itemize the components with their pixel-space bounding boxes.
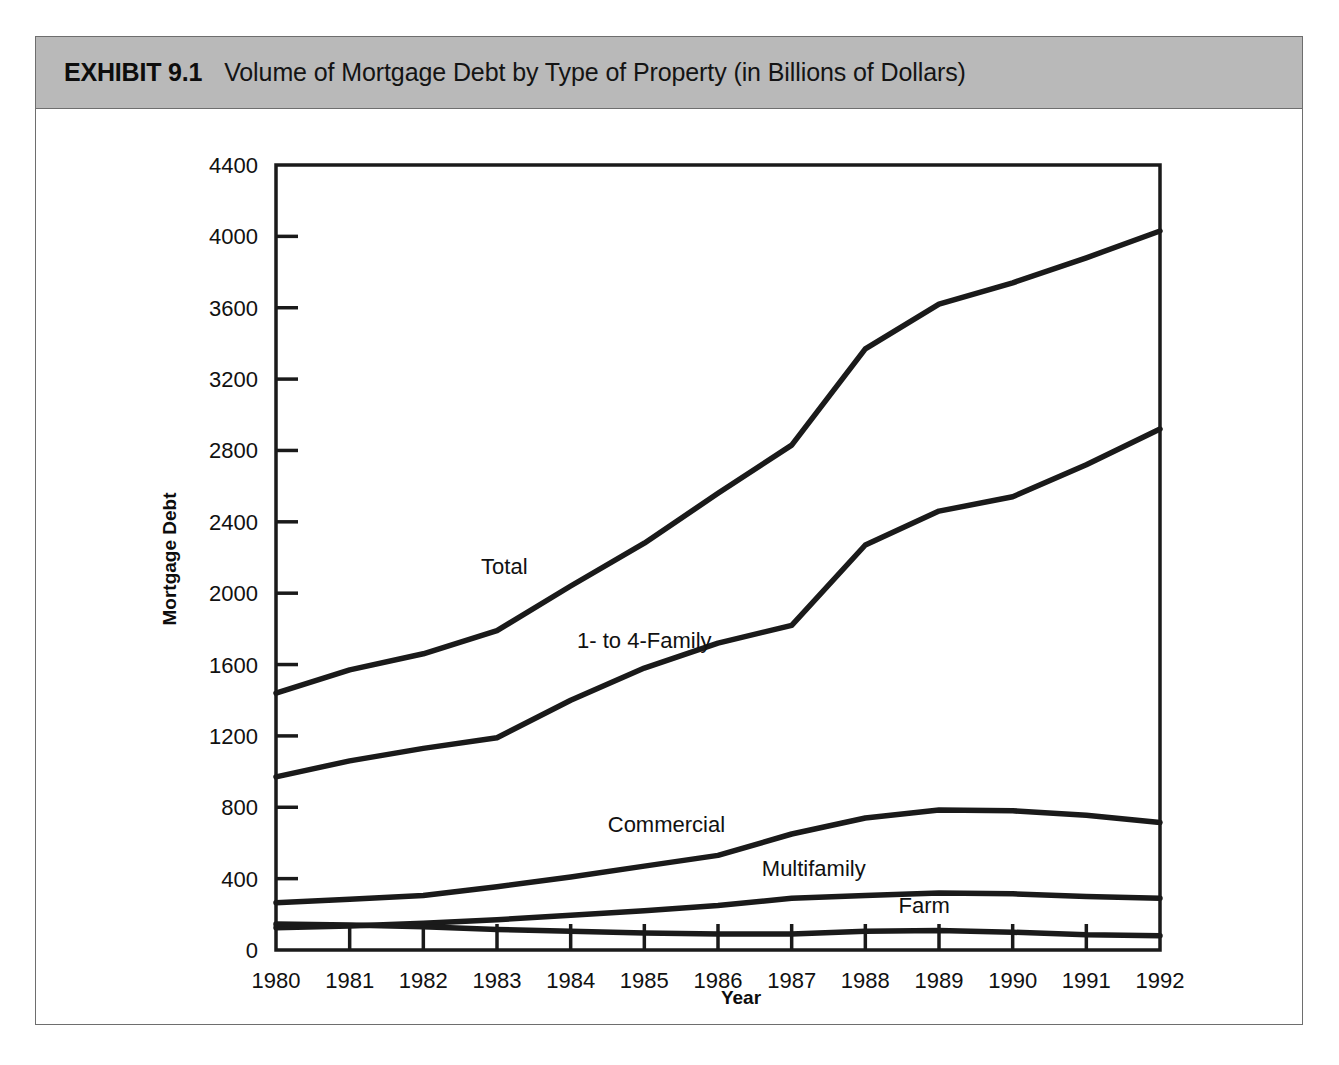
x-tick-label: 1987 [767, 968, 816, 993]
x-tick-label: 1990 [988, 968, 1037, 993]
series-line-1-to-4-family [276, 429, 1160, 777]
exhibit-frame: EXHIBIT 9.1 Volume of Mortgage Debt by T… [35, 36, 1303, 1025]
series-label-farm: Farm [899, 893, 950, 918]
y-tick-label: 1600 [209, 653, 258, 678]
y-axis-title: Mortgage Debt [159, 492, 180, 626]
y-tick-label: 2800 [209, 438, 258, 463]
x-tick-label: 1982 [399, 968, 448, 993]
y-tick-label: 4000 [209, 224, 258, 249]
x-tick-label: 1980 [252, 968, 301, 993]
series-inline-labels: Total1- to 4-FamilyCommercialMultifamily… [481, 554, 950, 919]
exhibit-number-label: EXHIBIT 9.1 [64, 58, 202, 87]
line-chart-svg: Mortgage Debt Year 040080012001600200024… [36, 109, 1304, 1025]
series-label-commercial: Commercial [608, 812, 725, 837]
x-tick-label: 1986 [694, 968, 743, 993]
x-tick-label: 1984 [546, 968, 595, 993]
x-tick-label: 1992 [1136, 968, 1185, 993]
y-tick-label: 0 [246, 938, 258, 963]
y-tick-label: 400 [221, 867, 258, 892]
exhibit-title: Volume of Mortgage Debt by Type of Prope… [224, 58, 966, 87]
exhibit-header: EXHIBIT 9.1 Volume of Mortgage Debt by T… [36, 37, 1302, 109]
y-tick-label: 2400 [209, 510, 258, 535]
x-tick-label: 1981 [325, 968, 374, 993]
series-label-multifamily: Multifamily [762, 856, 866, 881]
series-label-total: Total [481, 554, 527, 579]
x-tick-label: 1983 [473, 968, 522, 993]
y-tick-label: 3200 [209, 367, 258, 392]
series-line-total [276, 231, 1160, 693]
x-tick-label: 1991 [1062, 968, 1111, 993]
y-tick-label: 3600 [209, 296, 258, 321]
y-tick-label: 4400 [209, 153, 258, 178]
chart-plot-area: Mortgage Debt Year 040080012001600200024… [36, 109, 1304, 1025]
x-tick-label: 1988 [841, 968, 890, 993]
series-label-1-to-4-family: 1- to 4-Family [577, 628, 711, 653]
x-tick-label: 1985 [620, 968, 669, 993]
y-tick-label: 1200 [209, 724, 258, 749]
x-tick-label: 1989 [915, 968, 964, 993]
y-tick-label: 800 [221, 795, 258, 820]
y-axis-ticks: 0400800120016002000240028003200360040004… [209, 153, 298, 963]
y-tick-label: 2000 [209, 581, 258, 606]
